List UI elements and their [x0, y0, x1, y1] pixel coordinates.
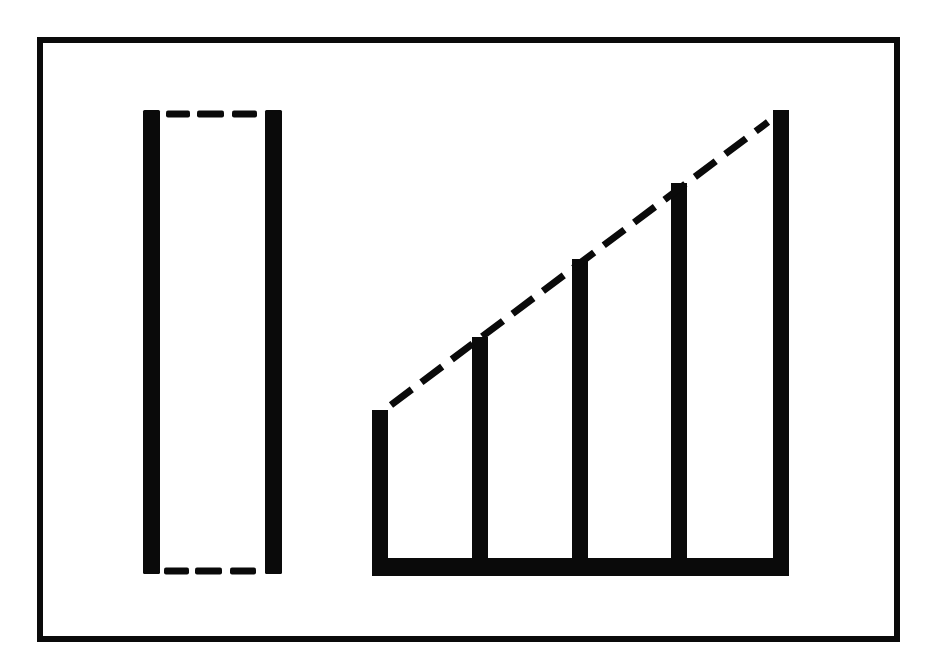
- vertical-bar-1: [372, 410, 388, 576]
- bottom-dash: [164, 568, 189, 575]
- top-dash: [232, 111, 257, 118]
- right-figure-ascending-bars: [372, 110, 789, 576]
- bottom-dash: [195, 568, 222, 575]
- vertical-bar-3: [572, 259, 588, 576]
- bottom-dash: [230, 568, 256, 575]
- vertical-bar-2: [472, 337, 488, 576]
- top-dash: [166, 111, 190, 118]
- vertical-bar-5: [773, 110, 789, 576]
- left-figure-dashed-rectangle: [143, 110, 282, 575]
- rectangle-left-bar: [143, 110, 160, 574]
- top-dash: [197, 111, 224, 118]
- vertical-bar-4: [671, 183, 687, 576]
- outer-frame: [40, 40, 897, 639]
- rectangle-right-bar: [265, 110, 282, 574]
- diagram-canvas: [0, 0, 940, 672]
